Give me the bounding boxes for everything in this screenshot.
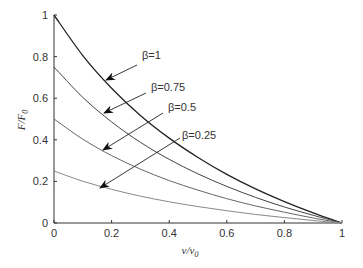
x-tick-label: 0.2 [104,227,119,239]
axes: 00.20.40.60.8100.20.40.60.81 [33,9,345,239]
x-tick-label: 0.8 [277,227,292,239]
x-axis-label: v/v0 [182,244,199,259]
y-tick-label: 0.2 [33,175,48,187]
annotation-label: β=0.5 [168,101,196,113]
y-tick-label: 1 [42,9,48,21]
curves [54,15,342,223]
annotation-label: β=1 [142,49,161,61]
x-tick-label: 1 [339,227,345,239]
y-tick-label: 0 [42,217,48,229]
force-velocity-chart: 00.20.40.60.8100.20.40.60.81 β=1β=0.75β=… [0,0,363,268]
x-tick-label: 0.4 [162,227,177,239]
annotation-arrow [104,93,146,113]
series-line [54,15,342,223]
y-tick-label: 0.4 [33,134,48,146]
y-tick-label: 0.6 [33,92,48,104]
x-tick-label: 0 [51,227,57,239]
annotation-arrow [106,65,137,80]
y-axis-label: F/F0 [15,110,30,132]
series-line [54,67,342,223]
annotation-label: β=0.25 [182,129,216,141]
x-tick-label: 0.6 [219,227,234,239]
y-tick-label: 0.8 [33,51,48,63]
annotation-arrow [103,113,163,150]
annotation-label: β=0.75 [151,81,185,93]
annotations: β=1β=0.75β=0.5β=0.25 [100,49,216,188]
